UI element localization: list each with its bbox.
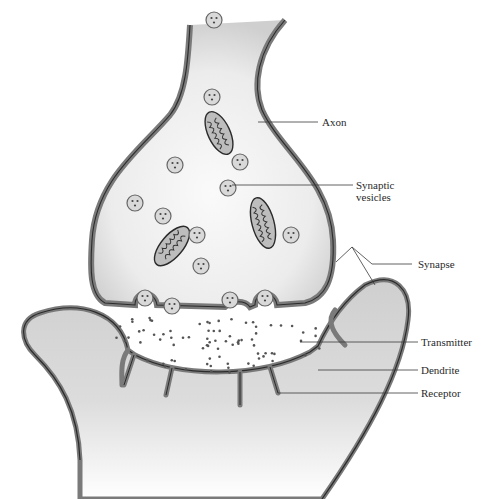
vesicle bbox=[204, 89, 220, 105]
transmitter-dot bbox=[280, 324, 283, 327]
transmitter-dot bbox=[273, 353, 276, 356]
transmitter-dot bbox=[182, 336, 185, 339]
transmitter-dot bbox=[142, 329, 145, 332]
transmitter-dot bbox=[206, 344, 209, 347]
transmitter-dot bbox=[214, 340, 217, 343]
vesicle bbox=[232, 154, 248, 170]
transmitter-dot bbox=[270, 324, 273, 327]
transmitter-dot bbox=[210, 370, 213, 373]
label-transmitter: Transmitter bbox=[421, 336, 472, 348]
transmitter-dot bbox=[164, 365, 167, 368]
transmitter-dot bbox=[227, 362, 230, 365]
vesicle bbox=[127, 195, 143, 211]
transmitter-dot bbox=[119, 325, 122, 328]
transmitter-dot bbox=[262, 355, 265, 358]
transmitter-dot bbox=[206, 337, 209, 340]
transmitter-dot bbox=[252, 321, 255, 324]
label-axon: Axon bbox=[322, 116, 347, 128]
transmitter-dot bbox=[207, 330, 210, 333]
vesicle bbox=[283, 227, 299, 243]
transmitter-dot bbox=[213, 330, 216, 333]
transmitter-dot bbox=[318, 347, 321, 350]
transmitter-dot bbox=[271, 360, 274, 363]
transmitter-dot bbox=[159, 338, 162, 341]
label-synaptic-vesicles-2: vesicles bbox=[356, 191, 391, 203]
vesicle bbox=[220, 180, 236, 196]
transmitter-dot bbox=[188, 336, 191, 339]
transmitter-dot bbox=[202, 347, 205, 350]
transmitter-dot bbox=[148, 317, 151, 320]
vesicle bbox=[167, 157, 183, 173]
transmitter-dot bbox=[173, 360, 176, 363]
synapse-leader-bottom bbox=[352, 247, 375, 285]
transmitter-dot bbox=[253, 344, 256, 347]
transmitter-dot bbox=[131, 318, 134, 321]
transmitter-dot bbox=[170, 337, 173, 340]
dendrite bbox=[24, 280, 409, 499]
transmitter-dot bbox=[139, 341, 142, 344]
transmitter-dot bbox=[252, 365, 255, 368]
transmitter-dot bbox=[208, 341, 211, 344]
transmitter-dot bbox=[124, 339, 127, 342]
vesicle bbox=[222, 292, 238, 308]
transmitter-dot bbox=[247, 362, 250, 365]
transmitter-dot bbox=[291, 325, 294, 328]
transmitter-dot bbox=[229, 335, 232, 338]
transmitter-dot bbox=[127, 336, 130, 339]
transmitter-dot bbox=[171, 359, 174, 362]
transmitter-dot bbox=[218, 355, 221, 358]
transmitter-dot bbox=[138, 330, 141, 333]
vesicle bbox=[164, 298, 180, 314]
transmitter-dot bbox=[217, 348, 220, 351]
transmitter-dot bbox=[257, 352, 260, 355]
label-receptor: Receptor bbox=[421, 387, 461, 399]
transmitter-dot bbox=[302, 331, 305, 334]
transmitter-dot bbox=[228, 371, 231, 374]
axon-terminal bbox=[91, 20, 333, 307]
transmitter-dot bbox=[314, 327, 317, 330]
transmitter-dot bbox=[237, 343, 240, 346]
transmitter-dot bbox=[153, 333, 156, 336]
vesicle bbox=[189, 227, 205, 243]
label-synaptic-vesicles-1: Synaptic bbox=[356, 179, 395, 191]
transmitter-dot bbox=[217, 320, 220, 323]
transmitter-dot bbox=[264, 352, 267, 355]
transmitter-dot bbox=[240, 339, 243, 342]
transmitter-dot bbox=[314, 335, 317, 338]
transmitter-dot bbox=[209, 357, 212, 360]
transmitter-dot bbox=[230, 318, 233, 321]
synapse-leader-top bbox=[336, 247, 412, 264]
label-synapse: Synapse bbox=[418, 258, 455, 270]
transmitter-dot bbox=[162, 362, 165, 365]
vesicle bbox=[155, 208, 171, 224]
transmitter-dot bbox=[172, 344, 175, 347]
transmitter-dot bbox=[227, 367, 230, 370]
transmitter-dot bbox=[245, 321, 248, 324]
transmitter-dot bbox=[271, 352, 274, 355]
vesicle bbox=[206, 12, 222, 28]
transmitter-dot bbox=[304, 354, 307, 357]
transmitter-dot bbox=[210, 365, 213, 368]
vesicle bbox=[193, 258, 209, 274]
transmitter-dot bbox=[218, 330, 221, 333]
transmitter-dot bbox=[162, 333, 165, 336]
transmitter-dot bbox=[231, 344, 234, 347]
transmitter-dot bbox=[169, 330, 172, 333]
transmitter-dot bbox=[206, 363, 209, 366]
transmitter-dot bbox=[255, 332, 258, 335]
transmitter-dot bbox=[255, 325, 258, 328]
vesicle bbox=[137, 290, 153, 306]
synapse-diagram: Axon Synaptic vesicles Synapse Transmitt… bbox=[0, 0, 492, 499]
transmitter-dot bbox=[206, 321, 209, 324]
transmitter-dot bbox=[146, 359, 149, 362]
label-dendrite: Dendrite bbox=[421, 364, 460, 376]
transmitter-dot bbox=[131, 321, 134, 324]
transmitter-dot bbox=[185, 368, 188, 371]
transmitter-dot bbox=[115, 337, 118, 340]
transmitter-dot bbox=[258, 357, 261, 360]
transmitter-dot bbox=[225, 340, 228, 343]
vesicle bbox=[257, 290, 273, 306]
transmitter-dot bbox=[198, 323, 201, 326]
transmitter-dot bbox=[251, 338, 254, 341]
